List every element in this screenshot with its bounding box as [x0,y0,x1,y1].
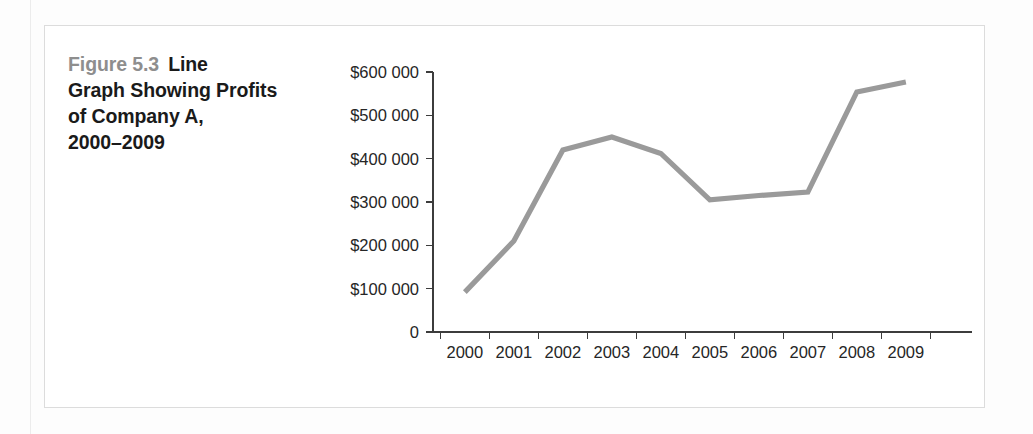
figure-caption-line-4: 2000–2009 [68,131,165,153]
figure-number-label: Figure 5.3 [68,53,159,75]
figure-caption-line-3: of Company A, [68,105,204,127]
figure-caption: Figure 5.3Line Graph Showing Profits of … [68,52,308,156]
page-background: Figure 5.3Line Graph Showing Profits of … [0,0,1033,434]
figure-caption-line-2: Graph Showing Profits [68,79,277,101]
figure-caption-line-1: Line [168,53,208,75]
